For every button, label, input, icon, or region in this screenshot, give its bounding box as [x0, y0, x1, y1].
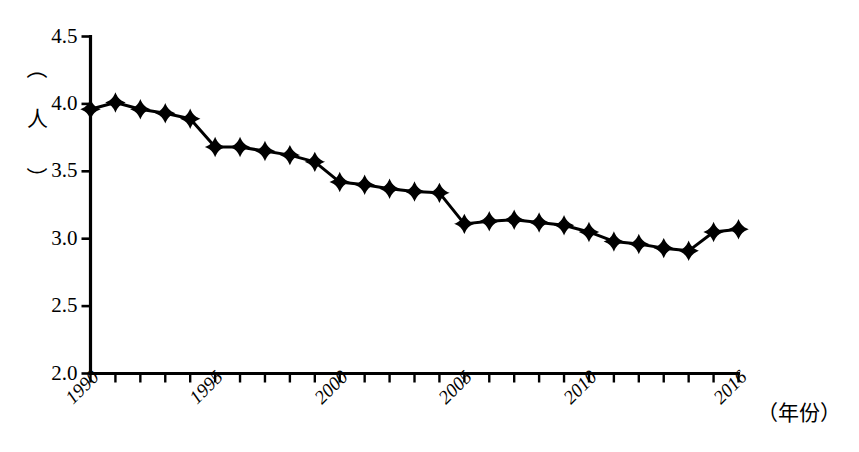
- data-point-marker: [381, 181, 397, 197]
- data-point-marker: [257, 143, 273, 159]
- data-point-marker: [506, 212, 522, 228]
- data-series-line: [91, 103, 739, 251]
- data-point-marker: [730, 221, 746, 237]
- data-point-marker: [282, 147, 298, 163]
- data-point-marker: [132, 101, 148, 117]
- data-point-marker: [531, 214, 547, 230]
- data-point-marker: [581, 224, 597, 240]
- data-point-markers: [82, 94, 746, 259]
- axes-group: [82, 37, 739, 383]
- data-point-marker: [232, 139, 248, 155]
- plot-area: [0, 0, 859, 452]
- data-point-marker: [656, 240, 672, 256]
- data-point-marker: [406, 183, 422, 199]
- data-point-marker: [481, 213, 497, 229]
- data-point-marker: [356, 177, 372, 193]
- data-point-marker: [157, 105, 173, 121]
- chart-container: （ 人 ） （年份） 2.02.53.03.54.04.5 1990199520…: [0, 0, 859, 452]
- data-point-marker: [107, 94, 123, 110]
- data-point-marker: [556, 217, 572, 233]
- data-point-marker: [606, 233, 622, 249]
- data-point-marker: [631, 236, 647, 252]
